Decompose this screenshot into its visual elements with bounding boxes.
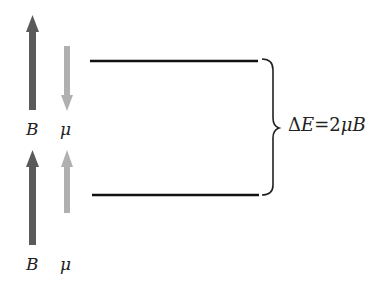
lower-field-label: B [26,256,39,273]
coefficient: 2 [329,114,340,135]
energy-diagram-canvas [0,0,392,285]
mu-symbol: μ [341,114,353,135]
energy-gap-brace [262,59,279,195]
field-symbol: B [352,114,365,135]
energy-symbol: E [301,114,314,135]
upper-field-arrow-icon [26,15,39,110]
delta-symbol: Δ [288,114,301,135]
upper-moment-arrow-icon [61,46,73,111]
lower-moment-label: μ [60,256,71,273]
lower-field-arrow-icon [26,150,39,245]
equals-sign: = [314,114,329,135]
upper-field-label: B [26,121,39,138]
lower-moment-arrow-icon [61,150,73,213]
upper-moment-label: μ [60,121,71,138]
energy-gap-equation: ΔE=2μB [288,116,366,134]
